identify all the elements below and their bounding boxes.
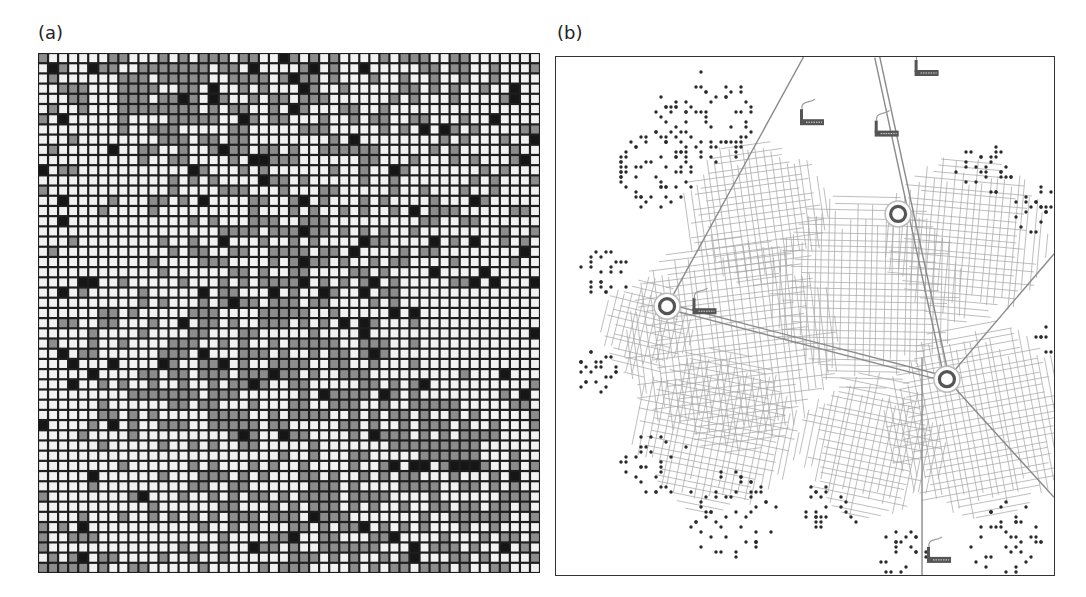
grid-cell-empty xyxy=(99,258,107,266)
grid-cell-empty xyxy=(350,258,358,266)
grid-cell-dense xyxy=(340,319,348,327)
grid-cell-developed xyxy=(230,391,238,399)
settlement-dot xyxy=(649,160,652,163)
grid-cell-empty xyxy=(200,227,208,235)
grid-cell-developed xyxy=(441,431,449,439)
grid-cell-developed xyxy=(441,207,449,215)
grid-cell-developed xyxy=(471,442,479,450)
grid-cell-developed xyxy=(119,95,127,103)
grid-cell-empty xyxy=(320,360,328,368)
grid-cell-empty xyxy=(190,360,198,368)
grid-cell-developed xyxy=(300,493,308,501)
settlement-dot xyxy=(689,135,692,138)
settlement-dot xyxy=(619,460,622,463)
grid-cell-empty xyxy=(160,564,168,572)
grid-cell-developed xyxy=(109,554,117,562)
grid-cell-empty xyxy=(521,452,529,460)
road-segment xyxy=(718,250,804,262)
grid-cell-developed xyxy=(190,309,198,317)
grid-cell-empty xyxy=(69,452,77,460)
grid-cell-empty xyxy=(49,431,57,439)
grid-cell-developed xyxy=(320,187,328,195)
grid-cell-empty xyxy=(280,166,288,174)
settlement-dot xyxy=(1049,205,1052,208)
grid-cell-developed xyxy=(461,370,469,378)
grid-cell-empty xyxy=(79,309,87,317)
grid-cell-empty xyxy=(129,64,137,72)
grid-cell-dense xyxy=(421,462,429,470)
grid-cell-empty xyxy=(511,523,519,531)
settlement-dot xyxy=(814,510,817,513)
grid-cell-empty xyxy=(471,472,479,480)
grid-cell-developed xyxy=(431,442,439,450)
settlement-dot xyxy=(734,490,737,493)
grid-cell-empty xyxy=(39,350,47,358)
grid-cell-empty xyxy=(441,166,449,174)
grid-cell-developed xyxy=(330,360,338,368)
grid-cell-empty xyxy=(391,482,399,490)
grid-cell-developed xyxy=(140,146,148,154)
grid-cell-developed xyxy=(240,350,248,358)
grid-cell-empty xyxy=(240,319,248,327)
grid-cell-empty xyxy=(411,278,419,286)
grid-cell-empty xyxy=(69,146,77,154)
grid-cell-empty xyxy=(39,503,47,511)
grid-cell-empty xyxy=(49,136,57,144)
grid-cell-empty xyxy=(370,207,378,215)
hub-north-icon xyxy=(885,201,911,227)
grid-cell-developed xyxy=(180,278,188,286)
grid-cell-empty xyxy=(160,370,168,378)
grid-cell-empty xyxy=(200,217,208,225)
road-segment xyxy=(839,387,887,388)
grid-cell-empty xyxy=(290,115,298,123)
grid-cell-developed xyxy=(421,421,429,429)
grid-cell-empty xyxy=(79,319,87,327)
grid-cell-empty xyxy=(451,319,459,327)
grid-cell-developed xyxy=(350,421,358,429)
grid-cell-dense xyxy=(511,85,519,93)
grid-cell-empty xyxy=(421,544,429,552)
grid-cell-empty xyxy=(270,268,278,276)
grid-cell-developed xyxy=(119,513,127,521)
grid-cell-dense xyxy=(59,197,67,205)
settlement-dot xyxy=(1039,190,1042,193)
grid-cell-developed xyxy=(150,64,158,72)
grid-cell-developed xyxy=(360,544,368,552)
grid-cell-empty xyxy=(109,431,117,439)
grid-cell-empty xyxy=(501,74,509,82)
grid-cell-empty xyxy=(461,493,469,501)
grid-cell-empty xyxy=(471,493,479,501)
grid-cell-empty xyxy=(501,125,509,133)
grid-cell-developed xyxy=(220,411,228,419)
grid-cell-empty xyxy=(99,156,107,164)
grid-cell-empty xyxy=(109,136,117,144)
grid-cell-empty xyxy=(401,268,409,276)
grid-cell-empty xyxy=(491,207,499,215)
grid-cell-developed xyxy=(501,238,509,246)
settlement-dot xyxy=(744,540,747,543)
grid-cell-dense xyxy=(250,156,258,164)
grid-cell-empty xyxy=(260,207,268,215)
grid-cell-empty xyxy=(300,289,308,297)
settlement-dot xyxy=(619,170,622,173)
grid-cell-developed xyxy=(300,340,308,348)
grid-cell-developed xyxy=(200,54,208,62)
grid-cell-empty xyxy=(521,115,529,123)
grid-cell-dense xyxy=(360,329,368,337)
grid-cell-empty xyxy=(451,503,459,511)
settlement-dot xyxy=(589,370,592,373)
grid-cell-empty xyxy=(190,187,198,195)
grid-cell-empty xyxy=(491,125,499,133)
grid-cell-empty xyxy=(59,278,67,286)
grid-cell-empty xyxy=(521,95,529,103)
grid-cell-empty xyxy=(150,482,158,490)
grid-cell-empty xyxy=(280,64,288,72)
grid-cell-developed xyxy=(180,401,188,409)
settlement-dot xyxy=(609,265,612,268)
settlement-dot xyxy=(624,260,627,263)
grid-cell-developed xyxy=(290,289,298,297)
grid-cell-empty xyxy=(521,472,529,480)
grid-cell-developed xyxy=(250,227,258,235)
grid-cell-dense xyxy=(89,278,97,286)
grid-cell-empty xyxy=(481,493,489,501)
